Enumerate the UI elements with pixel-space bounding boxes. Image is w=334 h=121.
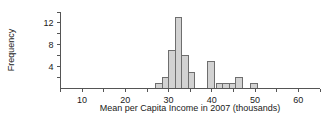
y-axis-tick-label: 4 bbox=[48, 62, 53, 72]
histogram-bar bbox=[188, 72, 194, 88]
histogram-bar bbox=[162, 78, 168, 89]
histogram-bar bbox=[236, 78, 242, 89]
x-axis-ticks bbox=[61, 89, 321, 93]
histogram-bar bbox=[251, 83, 257, 88]
histogram-figure: 102030405060 4812 Mean per Capita Income… bbox=[0, 0, 334, 121]
histogram-bar bbox=[223, 83, 229, 88]
histogram-bar bbox=[175, 17, 181, 88]
x-axis-tick-label: 60 bbox=[293, 95, 303, 105]
histogram-bar bbox=[229, 83, 235, 88]
x-axis-title: Mean per Capita Income in 2007 (thousand… bbox=[100, 103, 281, 113]
y-axis-ticks bbox=[57, 12, 61, 78]
histogram-bar bbox=[208, 61, 214, 88]
y-axis-title: Frequency bbox=[6, 28, 16, 71]
x-axis-tick-label: 10 bbox=[77, 95, 87, 105]
y-axis-tick-label: 12 bbox=[43, 18, 53, 28]
bars-group bbox=[156, 17, 258, 88]
histogram-bar bbox=[216, 83, 222, 88]
histogram-bar bbox=[169, 50, 175, 88]
histogram-bar bbox=[182, 56, 188, 89]
y-axis-tick-labels: 4812 bbox=[43, 18, 53, 72]
y-axis: 4812 bbox=[43, 12, 60, 88]
histogram-bar bbox=[156, 83, 162, 88]
histogram-plot: 102030405060 4812 Mean per Capita Income… bbox=[0, 0, 334, 121]
y-axis-tick-label: 8 bbox=[48, 40, 53, 50]
